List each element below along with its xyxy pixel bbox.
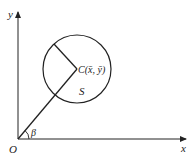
origin-label: O [9,143,17,155]
diagram-canvas: y x O β C(x̄, ȳ) S [0,0,195,160]
origin-to-center-line [18,69,77,139]
center-label: C(x̄, ȳ) [78,64,106,76]
region-label: S [79,85,85,97]
radius-line [54,44,77,69]
angle-arc [25,131,29,140]
y-axis-label: y [7,8,13,20]
x-axis-label: x [180,142,186,154]
angle-label: β [30,127,36,138]
